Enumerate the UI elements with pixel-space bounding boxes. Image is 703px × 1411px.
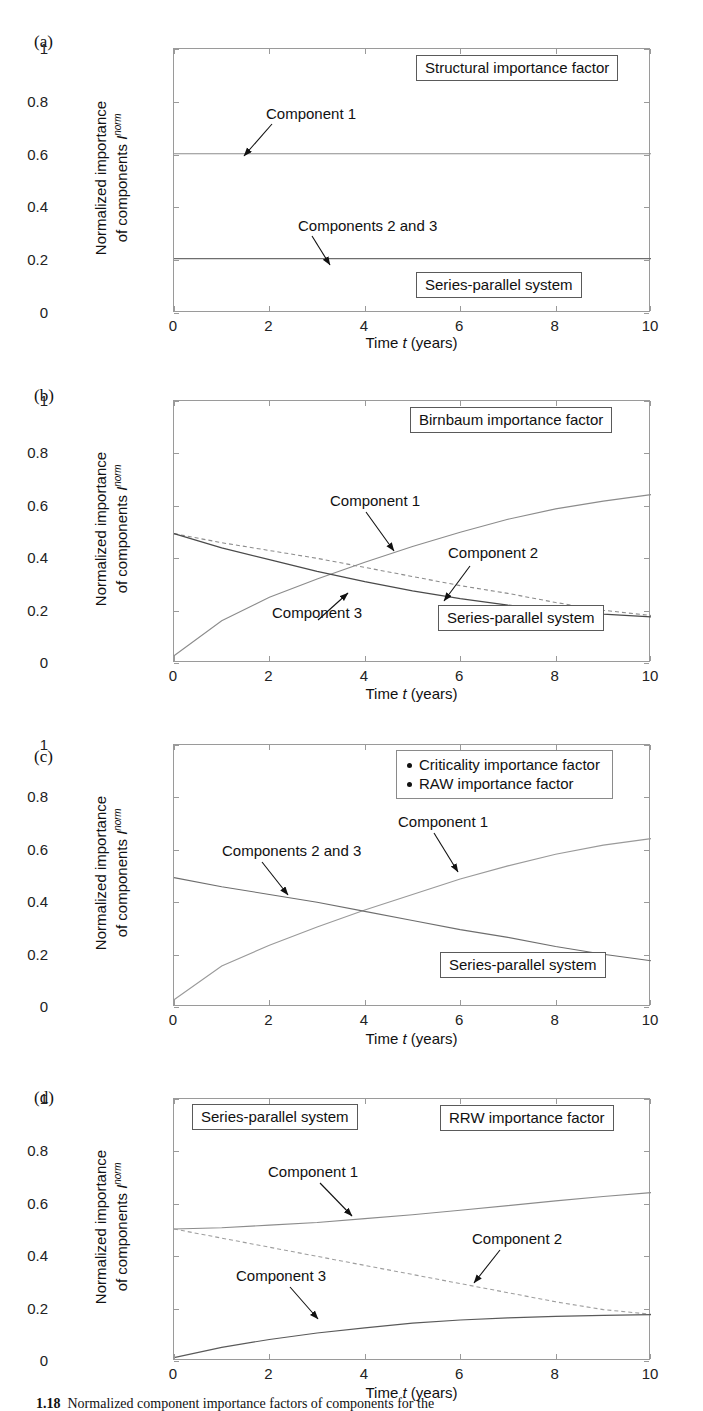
y-tick-label: 0 (2, 998, 48, 1015)
y-tick (644, 453, 649, 454)
y-tick-label: 0.4 (2, 198, 48, 215)
panel-a-factor-box: Structural importance factor (416, 55, 618, 81)
y-tick-label: 0.8 (2, 788, 48, 805)
x-tick-label: 0 (169, 1011, 177, 1028)
y-tick-label: 0.8 (2, 1142, 48, 1159)
panel-d-y-axis-title: Normalized importance (92, 1096, 109, 1358)
y-tick-label: 0.6 (2, 496, 48, 513)
y-tick (174, 453, 179, 454)
x-tick-label: 10 (642, 667, 659, 684)
legend-bullet-icon (407, 763, 412, 768)
y-tick (644, 1309, 649, 1310)
figure-caption: 1.18 Normalized component importance fac… (36, 1396, 434, 1411)
x-tick (269, 306, 270, 311)
x-tick (365, 1099, 366, 1104)
x-tick-label: 6 (455, 667, 463, 684)
y-tick-label: 1 (2, 736, 48, 753)
y-tick-label: 0.8 (2, 444, 48, 461)
x-tick (365, 1000, 366, 1005)
x-tick (556, 1000, 557, 1005)
panel-b-y-axis-title: Normalized importance (92, 398, 109, 660)
y-tick (174, 102, 179, 103)
y-tick (644, 745, 649, 746)
x-tick (269, 49, 270, 54)
y-tick (174, 207, 179, 208)
y-tick (174, 902, 179, 903)
y-tick (174, 663, 179, 664)
x-tick-label: 4 (360, 1011, 368, 1028)
y-tick (644, 850, 649, 851)
y-tick (174, 155, 179, 156)
y-tick (174, 1256, 179, 1257)
panel-a-x-axis-title: Time t (years) (173, 334, 650, 351)
y-tick (644, 506, 649, 507)
y-tick-label: 0.4 (2, 1247, 48, 1264)
x-tick (365, 49, 366, 54)
y-tick (174, 797, 179, 798)
x-tick (556, 1099, 557, 1104)
y-tick-label: 0.4 (2, 549, 48, 566)
panel-c-annotation-component-1: Component 1 (398, 813, 488, 830)
panel-a-y-axis-title-2: of components Inorm (112, 46, 130, 310)
x-tick (460, 1000, 461, 1005)
y-tick (644, 797, 649, 798)
y-tick (644, 1099, 649, 1100)
x-tick (365, 1354, 366, 1359)
panel-b-annotation-component-2: Component 2 (448, 544, 538, 561)
x-tick-label: 2 (264, 667, 272, 684)
x-tick-label: 8 (550, 1365, 558, 1382)
panel-b: (b) Birnbaum importance factor Series-pa… (0, 352, 703, 710)
x-tick (556, 306, 557, 311)
panel-c-y-axis-title-2: of components Inorm (112, 742, 130, 1004)
panel-d-y-axis-title-2: of components Inorm (112, 1096, 130, 1358)
panel-c-annotation-components-2-3: Components 2 and 3 (222, 842, 361, 859)
y-tick-label: 0 (2, 654, 48, 671)
x-tick-label: 6 (455, 1011, 463, 1028)
y-tick (644, 558, 649, 559)
legend-item-raw: RAW importance factor (407, 774, 600, 793)
panel-c-system-box: Series-parallel system (440, 952, 606, 978)
curve-component-1 (174, 1193, 651, 1229)
x-tick (174, 1000, 175, 1005)
y-tick-label: 1 (2, 40, 48, 57)
panel-d-annotation-component-2: Component 2 (472, 1230, 562, 1247)
y-tick (174, 1204, 179, 1205)
curve-component-3 (174, 1315, 651, 1358)
panel-b-system-box: Series-parallel system (438, 605, 604, 631)
panel-d-plot-area (173, 1098, 650, 1360)
y-tick (644, 1151, 649, 1152)
panel-b-x-axis-title: Time t (years) (173, 685, 650, 702)
y-tick-label: 0.2 (2, 601, 48, 618)
y-tick-label: 1 (2, 392, 48, 409)
panel-d-curves (174, 1099, 651, 1359)
panel-b-annotation-component-3: Component 3 (272, 604, 362, 621)
x-tick (269, 656, 270, 661)
x-tick (365, 745, 366, 750)
x-tick (460, 1099, 461, 1104)
panel-d-factor-box: RRW importance factor (440, 1105, 614, 1131)
y-tick-label: 0.2 (2, 251, 48, 268)
x-tick (174, 306, 175, 311)
panel-b-y-axis-title-2: of components Inorm (112, 398, 130, 660)
y-tick-label: 0 (2, 304, 48, 321)
x-tick-label: 6 (455, 317, 463, 334)
y-tick (174, 313, 179, 314)
x-tick (460, 1354, 461, 1359)
y-tick (174, 1361, 179, 1362)
panel-d: (d) Series-parallel system RRW importanc… (0, 1052, 703, 1411)
x-tick (460, 656, 461, 661)
legend-bullet-icon (407, 782, 412, 787)
x-tick (269, 1000, 270, 1005)
panel-a-y-axis-title: Normalized importance (92, 46, 109, 310)
y-tick (174, 611, 179, 612)
y-tick-label: 0.6 (2, 840, 48, 857)
y-tick (644, 313, 649, 314)
x-tick (556, 1354, 557, 1359)
x-tick-label: 0 (169, 667, 177, 684)
y-tick (174, 955, 179, 956)
y-tick (644, 260, 649, 261)
curve-component-1 (174, 495, 651, 656)
x-tick (174, 49, 175, 54)
x-tick-label: 4 (360, 667, 368, 684)
figure-normalized-importance-factors: (a) Structural importance factor Series-… (0, 0, 703, 1411)
